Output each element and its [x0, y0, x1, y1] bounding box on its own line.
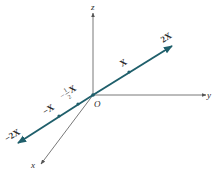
vector-line-negative	[18, 95, 93, 143]
origin-label: O	[94, 99, 101, 109]
scalar-multiple-diagram: z y x O 2X X − 1 2 X −X −2X	[0, 0, 216, 173]
label-2x: 2X	[159, 30, 174, 45]
vector-line-positive	[93, 46, 172, 95]
x-axis-label: x	[30, 160, 35, 170]
point-neg-x	[57, 114, 60, 117]
y-axis-label: y	[206, 90, 211, 100]
label-neg-x: −X	[41, 102, 57, 117]
point-x	[127, 70, 130, 73]
z-axis-label: z	[90, 2, 95, 12]
point-neg-half-x	[76, 102, 79, 105]
label-neg-half-x: − 1 2 X	[57, 82, 80, 103]
label-x: X	[118, 57, 129, 69]
point-origin	[91, 93, 95, 97]
